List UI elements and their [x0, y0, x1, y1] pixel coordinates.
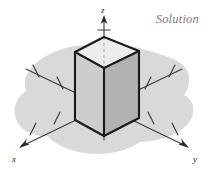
z-axis-label: z [100, 5, 105, 15]
solution-label: Solution [156, 12, 199, 27]
y-axis-label: y [192, 154, 197, 164]
x-axis-label: x [11, 154, 16, 164]
figure-canvas: z x y Solution [0, 0, 208, 172]
